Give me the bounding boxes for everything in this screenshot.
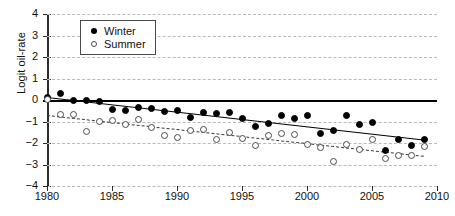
data-point-winter — [83, 97, 90, 104]
data-point-winter — [278, 112, 285, 119]
data-point-summer — [395, 152, 402, 159]
x-tick-label: 1980 — [24, 190, 70, 202]
data-point-summer — [421, 143, 428, 150]
data-point-summer — [252, 142, 259, 149]
x-tick-label: 1995 — [219, 190, 265, 202]
data-point-summer — [44, 96, 51, 103]
data-point-winter — [330, 127, 337, 134]
data-point-winter — [174, 107, 181, 114]
legend-label-winter: Winter — [104, 25, 136, 37]
data-point-winter — [356, 121, 363, 128]
data-point-summer — [408, 152, 415, 159]
trendline-summer — [47, 115, 424, 157]
legend-item-summer: Summer — [88, 37, 146, 50]
data-point-winter — [317, 130, 324, 137]
y-tick-label: −2 — [12, 136, 38, 148]
data-point-summer — [317, 144, 324, 151]
data-point-winter — [265, 120, 272, 127]
data-point-summer — [291, 131, 298, 138]
data-point-summer — [174, 134, 181, 141]
data-point-winter — [135, 104, 142, 111]
data-point-winter — [304, 112, 311, 119]
data-point-winter — [187, 114, 194, 121]
legend-item-winter: Winter — [88, 24, 146, 37]
data-point-winter — [382, 147, 389, 154]
data-point-winter — [291, 115, 298, 122]
data-point-summer — [265, 132, 272, 139]
data-point-winter — [421, 136, 428, 143]
chart-legend: Winter Summer — [80, 20, 156, 55]
legend-label-summer: Summer — [104, 38, 146, 50]
data-point-summer — [57, 111, 64, 118]
y-tick-label: 4 — [12, 7, 38, 19]
open-circle-icon — [88, 41, 99, 47]
data-point-summer — [135, 116, 142, 123]
data-point-summer — [96, 118, 103, 125]
filled-circle-icon — [88, 28, 99, 34]
y-tick-label: 1 — [12, 72, 38, 84]
data-point-winter — [252, 123, 259, 130]
data-point-winter — [343, 112, 350, 119]
data-point-summer — [161, 132, 168, 139]
data-point-summer — [122, 121, 129, 128]
x-tick-label: 2000 — [284, 190, 330, 202]
data-point-summer — [239, 135, 246, 142]
data-point-winter — [109, 106, 116, 113]
x-tick-label: 2005 — [349, 190, 395, 202]
y-tick-label: 3 — [12, 29, 38, 41]
data-point-summer — [187, 127, 194, 134]
x-tick-label: 1990 — [154, 190, 200, 202]
data-point-winter — [122, 107, 129, 114]
data-point-winter — [70, 97, 77, 104]
data-point-summer — [369, 136, 376, 143]
data-point-summer — [83, 128, 90, 135]
data-point-winter — [369, 119, 376, 126]
chart-container: Logit oil-rate −4−3−2−101234 19801985199… — [0, 0, 455, 216]
y-axis-label: Logit oil-rate — [15, 0, 27, 128]
data-point-winter — [239, 115, 246, 122]
data-point-summer — [200, 126, 207, 133]
data-point-summer — [382, 155, 389, 162]
data-point-winter — [148, 105, 155, 112]
y-tick-label: −3 — [12, 158, 38, 170]
x-tick-label: 2010 — [414, 190, 455, 202]
data-point-summer — [278, 130, 285, 137]
data-point-summer — [304, 141, 311, 148]
data-point-winter — [200, 109, 207, 116]
data-point-summer — [226, 129, 233, 136]
data-point-winter — [96, 98, 103, 105]
data-point-summer — [109, 117, 116, 124]
data-point-winter — [408, 142, 415, 149]
data-point-summer — [330, 158, 337, 165]
data-point-winter — [226, 109, 233, 116]
data-point-winter — [395, 136, 402, 143]
data-point-summer — [70, 111, 77, 118]
data-point-winter — [213, 110, 220, 117]
y-tick-label: −1 — [12, 115, 38, 127]
data-point-summer — [356, 146, 363, 153]
data-point-winter — [161, 108, 168, 115]
data-point-winter — [57, 90, 64, 97]
y-tick-label: 2 — [12, 50, 38, 62]
data-point-summer — [343, 141, 350, 148]
y-tick-label: 0 — [12, 93, 38, 105]
x-tick-label: 1985 — [89, 190, 135, 202]
data-point-summer — [148, 124, 155, 131]
data-point-summer — [213, 136, 220, 143]
